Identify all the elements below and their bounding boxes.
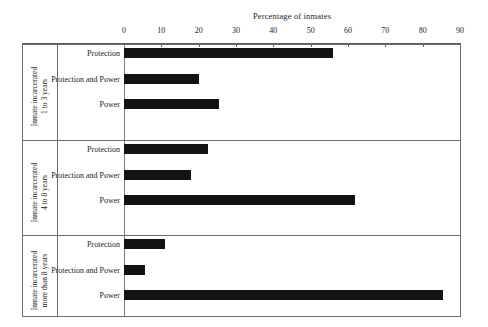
zero-baseline	[124, 44, 125, 140]
frame-bottom-border	[22, 316, 461, 317]
panel-divider	[22, 140, 461, 141]
chart-panel: Inmate incarcerated more than 8 yearsPro…	[22, 235, 461, 316]
bar	[124, 48, 333, 58]
bar	[124, 195, 355, 205]
bar	[124, 290, 443, 300]
bar-category-label: Power	[0, 196, 120, 205]
panel-divider	[22, 235, 461, 236]
bar-chart-figure: Percentage of inmates 010203040506070809…	[0, 0, 488, 327]
bar	[124, 99, 219, 109]
bar-category-label: Power	[0, 100, 120, 109]
bar-category-label: Power	[0, 291, 120, 300]
x-tick-label: 60	[344, 26, 352, 35]
x-tick-label: 50	[307, 26, 315, 35]
bar	[124, 265, 145, 275]
bar-category-label: Protection and Power	[0, 171, 120, 180]
bar	[124, 144, 208, 154]
bar	[124, 74, 199, 84]
x-tick-label: 0	[122, 26, 126, 35]
group-caption-rule	[57, 44, 58, 140]
panel-divider	[22, 44, 461, 45]
group-caption-rule	[57, 140, 58, 235]
x-tick-label: 30	[232, 26, 240, 35]
x-tick-label: 70	[381, 26, 389, 35]
bar-category-label: Protection	[0, 145, 120, 154]
bar	[124, 170, 191, 180]
bar-category-label: Protection	[0, 49, 120, 58]
chart-panel: Inmate incarcerated 1 to 3 yearsProtecti…	[22, 44, 461, 140]
x-tick-label: 40	[269, 26, 277, 35]
bar-category-label: Protection and Power	[0, 266, 120, 275]
bar-category-label: Protection and Power	[0, 75, 120, 84]
x-tick-label: 80	[419, 26, 427, 35]
group-caption: Inmate incarcerated 1 to 3 years	[30, 49, 49, 144]
chart-panel: Inmate incarcerated 4 to 8 yearsProtecti…	[22, 140, 461, 235]
x-tick-label: 10	[157, 26, 165, 35]
bar-category-label: Protection	[0, 240, 120, 249]
group-caption: Inmate incarcerated 4 to 8 years	[30, 145, 49, 240]
zero-baseline	[124, 140, 125, 235]
x-tick-label: 90	[456, 26, 464, 35]
x-tick-label: 20	[195, 26, 203, 35]
chart-title: Percentage of inmates	[124, 11, 460, 21]
bar	[124, 239, 165, 249]
